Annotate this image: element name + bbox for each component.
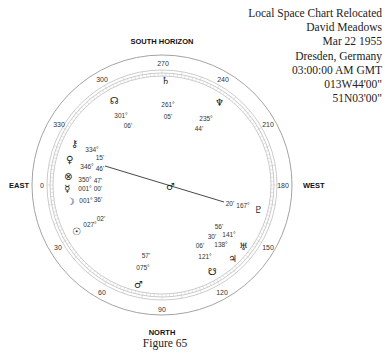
saturn-icon: ♄	[161, 75, 170, 86]
east-label: EAST	[9, 181, 29, 190]
chiron-degree: 334°	[85, 146, 99, 153]
saturn-minute: 05'	[164, 113, 172, 120]
south-horizon-label: SOUTH HORIZON	[131, 37, 194, 46]
uranus-icon: ♅	[239, 241, 248, 252]
degree-label-150: 150	[262, 244, 274, 251]
south-node-icon: ☋	[208, 266, 217, 277]
degree-label-90: 90	[158, 306, 166, 313]
planet-saturn: ♄ 261° 05'	[161, 75, 175, 120]
pluto-degree: 167°	[236, 202, 250, 209]
sun-icon: ☉	[72, 226, 81, 237]
figure-caption: Figure 65	[0, 337, 330, 349]
jupiter-degree: 138°	[214, 241, 228, 248]
north-node-degree: 301°	[114, 112, 128, 119]
degree-label-300: 300	[96, 76, 108, 83]
moon-minute: 36'	[94, 196, 102, 203]
chiron-minute: 15'	[96, 154, 104, 161]
fortune-degree: 350°	[78, 176, 92, 183]
south-node-degree: 121°	[198, 253, 212, 260]
mars-minute: 57'	[142, 252, 150, 259]
degree-label-330: 330	[53, 121, 65, 128]
degree-label-180: 180	[277, 182, 289, 189]
north-node-icon: ☊	[110, 95, 119, 106]
saturn-degree: 261°	[161, 101, 175, 108]
outer-circle	[32, 55, 292, 315]
pluto-minute: 20'	[226, 200, 234, 207]
degree-label-120: 120	[216, 289, 228, 296]
jupiter-icon: ♃	[228, 253, 237, 264]
planet-north-node: ☊ 301° 06'	[110, 95, 132, 129]
neptune-degree: 235°	[199, 115, 213, 122]
center-mars-marker-icon: ♂	[166, 181, 175, 192]
neptune-minute: 44'	[195, 125, 203, 132]
planet-sun: ☉ 027° 02'	[72, 215, 105, 237]
uranus-minute: 56'	[215, 223, 223, 230]
degree-label-240: 240	[217, 76, 229, 83]
moon-icon: ☽	[66, 196, 75, 207]
mercury-icon: ☿	[64, 183, 70, 194]
degree-label-60: 60	[98, 289, 106, 296]
south-node-minute: 06'	[196, 242, 204, 249]
chiron-icon: ⚷	[71, 138, 78, 149]
planet-neptune: ♆ 235° 44'	[195, 97, 224, 132]
uranus-degree: 141°	[222, 231, 236, 238]
mercury-minute: 00'	[94, 185, 102, 192]
planet-mercury: ☿ 001° 00'	[64, 183, 102, 194]
degree-label-270: 270	[157, 60, 169, 67]
sun-minute: 02'	[97, 215, 105, 222]
degree-label-30: 30	[54, 244, 62, 251]
local-space-wheel: SOUTH HORIZON NORTH EAST WEST 0 30 60 90…	[0, 0, 390, 355]
mars-degree: 075°	[136, 264, 150, 271]
planet-pluto: ♇ 167° 20'	[226, 200, 263, 215]
neptune-icon: ♆	[215, 97, 224, 108]
sun-degree: 027°	[83, 221, 97, 228]
planet-mars: ♂ 075° 57'	[134, 252, 150, 290]
degree-label-0: 0	[40, 182, 44, 189]
venus-degree: 346°	[80, 163, 94, 170]
axis-line	[105, 166, 224, 202]
fortune-icon: ⊗	[64, 171, 72, 182]
planet-moon: ☽ 001° 36'	[66, 196, 102, 207]
venus-minute: 46'	[96, 165, 104, 172]
planet-chiron: ⚷ 334° 15'	[71, 138, 104, 161]
west-label: WEST	[303, 181, 325, 190]
mars-icon: ♂	[134, 279, 143, 290]
fortune-minute: 47'	[94, 177, 102, 184]
jupiter-minute: 30'	[208, 233, 216, 240]
mercury-degree: 001°	[78, 185, 92, 192]
venus-icon: ♀	[66, 154, 73, 165]
degree-label-210: 210	[262, 121, 274, 128]
north-label: NORTH	[149, 328, 176, 337]
moon-degree: 001°	[79, 197, 93, 204]
pluto-icon: ♇	[254, 204, 263, 215]
north-node-minute: 06'	[124, 122, 132, 129]
